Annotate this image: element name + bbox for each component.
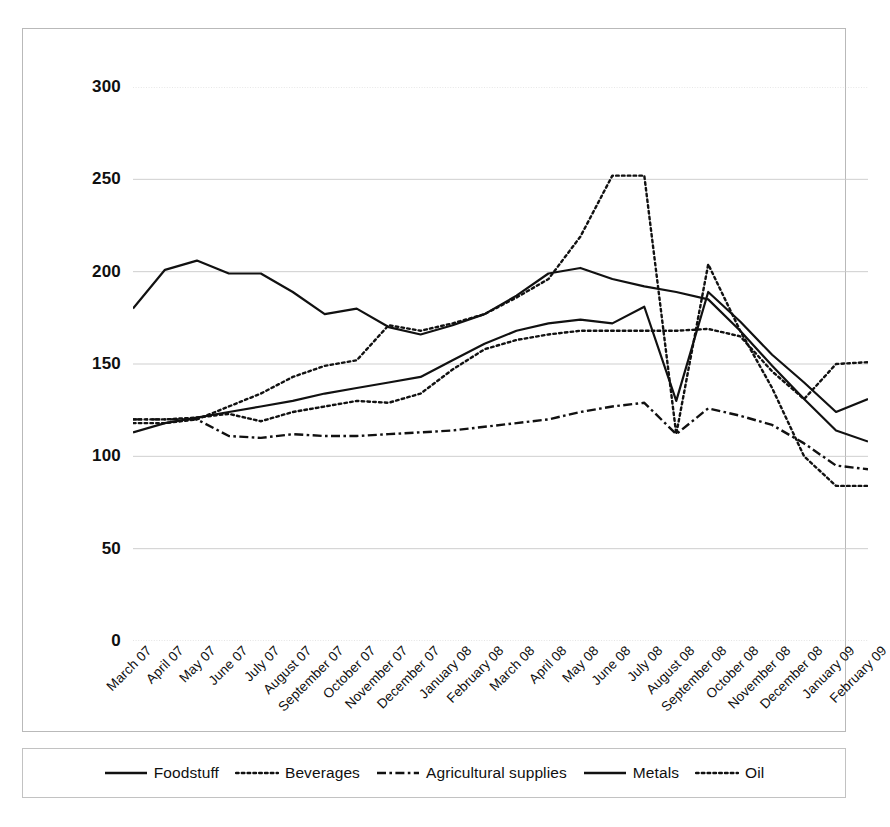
y-axis-tick-label: 200 <box>92 262 121 282</box>
legend-swatch-dashdot-icon <box>376 767 420 779</box>
legend-swatch-dotted-icon <box>695 767 739 779</box>
legend-label: Agricultural supplies <box>426 764 567 782</box>
legend-item-oil[interactable]: Oil <box>695 764 764 782</box>
line-plot <box>133 87 868 641</box>
y-axis-tick-label: 0 <box>111 631 121 651</box>
series-line-metals <box>133 261 868 442</box>
legend-swatch-solid-icon <box>583 767 627 779</box>
y-axis-tick-label: 100 <box>92 446 121 466</box>
legend: FoodstuffBeveragesAgricultural suppliesM… <box>22 748 846 798</box>
legend-label: Oil <box>745 764 764 782</box>
y-axis-tick-label: 150 <box>92 354 121 374</box>
series-line-beverages <box>133 329 868 421</box>
y-axis-tick-label: 50 <box>102 539 121 559</box>
legend-item-foodstuff[interactable]: Foodstuff <box>104 764 219 782</box>
legend-item-agricultural-supplies[interactable]: Agricultural supplies <box>376 764 567 782</box>
plot-area <box>133 87 868 641</box>
x-axis: March 07April 07May 07June 07July 07Augu… <box>133 643 868 763</box>
legend-item-metals[interactable]: Metals <box>583 764 679 782</box>
series-line-agricultural-supplies <box>133 403 868 469</box>
legend-label: Foodstuff <box>154 764 219 782</box>
y-axis: 300250200150100500 <box>59 87 121 641</box>
chart-frame: 300250200150100500 March 07April 07May 0… <box>22 28 846 732</box>
y-axis-tick-label: 250 <box>92 169 121 189</box>
legend-swatch-dotted-icon <box>235 767 279 779</box>
legend-label: Metals <box>633 764 679 782</box>
legend-item-beverages[interactable]: Beverages <box>235 764 360 782</box>
legend-swatch-solid-icon <box>104 767 148 779</box>
legend-label: Beverages <box>285 764 360 782</box>
series-line-oil <box>133 176 868 486</box>
y-axis-tick-label: 300 <box>92 77 121 97</box>
